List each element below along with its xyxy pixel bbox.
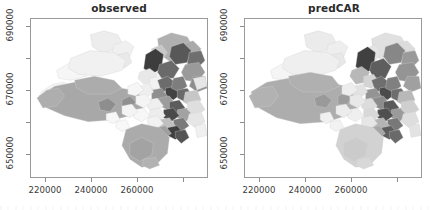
choropleth-svg-predcar: [245, 19, 421, 177]
y-tick-label: 670000: [219, 67, 229, 111]
panel-title-observed: observed: [30, 2, 208, 14]
image-artifact-row: [0, 206, 430, 210]
map-plot-predcar: [244, 18, 422, 178]
x-tick: [259, 178, 260, 182]
y-tick: [26, 26, 30, 27]
y-tick-label: 650000: [5, 131, 15, 175]
x-tick: [183, 178, 184, 182]
x-tick: [351, 178, 352, 182]
y-tick-label: 690000: [219, 3, 229, 47]
y-tick: [26, 122, 30, 123]
x-tick: [397, 178, 398, 182]
x-tick-label: 260000: [323, 185, 379, 195]
x-tick: [91, 178, 92, 182]
y-tick-label: 690000: [5, 3, 15, 47]
x-tick-label: 260000: [109, 185, 165, 195]
map-plot-observed: [30, 18, 208, 178]
y-tick: [240, 58, 244, 59]
y-tick: [26, 90, 30, 91]
y-tick: [240, 122, 244, 123]
panel-predcar: predCAR: [215, 0, 430, 210]
y-tick: [240, 26, 244, 27]
y-tick: [26, 58, 30, 59]
y-tick: [240, 90, 244, 91]
y-tick-label: 670000: [5, 67, 15, 111]
x-tick: [305, 178, 306, 182]
x-tick: [45, 178, 46, 182]
figure-container: observed: [0, 0, 430, 210]
y-tick-label: 650000: [219, 131, 229, 175]
y-tick: [26, 154, 30, 155]
panel-observed: observed: [0, 0, 215, 210]
y-tick: [240, 154, 244, 155]
choropleth-svg-observed: [31, 19, 207, 177]
panel-title-predcar: predCAR: [245, 2, 423, 14]
x-tick: [137, 178, 138, 182]
